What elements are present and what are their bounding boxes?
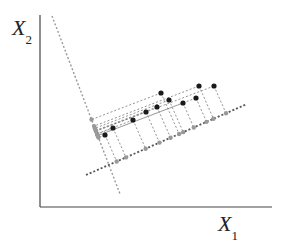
data-point <box>130 117 135 122</box>
projected-point-principal <box>204 120 208 124</box>
projected-point-principal <box>157 140 161 144</box>
projection-guide-secondary <box>98 103 183 136</box>
data-point <box>102 132 107 137</box>
projected-point-principal <box>124 155 128 159</box>
projected-point-principal <box>143 146 147 150</box>
data-point <box>180 100 185 105</box>
projected-point-principal <box>177 132 181 136</box>
projected-point-principal <box>168 136 172 140</box>
principal-component-line <box>86 104 247 175</box>
data-point <box>211 83 216 88</box>
y-axis-subscript: 2 <box>25 32 32 47</box>
projected-point-secondary <box>92 124 96 128</box>
projected-point-principal <box>114 159 118 163</box>
y-axis-label: X2 <box>12 17 32 42</box>
data-point <box>110 125 115 130</box>
projected-point-principal <box>211 117 215 121</box>
data-point <box>154 104 159 109</box>
projection-guide-principal <box>214 86 226 113</box>
projection-guide-secondary <box>94 86 199 126</box>
data-point <box>193 95 198 100</box>
y-axis-symbol: X <box>12 15 25 40</box>
projection-guide-principal <box>113 128 126 157</box>
projection-guide-principal <box>157 107 171 138</box>
projection-guide-principal <box>183 103 194 127</box>
x-axis-subscript: 1 <box>231 228 238 243</box>
x-axis-label: X1 <box>218 213 238 238</box>
projection-guide-principal <box>196 98 207 122</box>
pca-diagram <box>0 0 282 246</box>
projection-guide-principal <box>133 120 146 149</box>
projected-point-secondary <box>89 117 93 121</box>
projection-guide-principal <box>105 135 117 161</box>
data-point <box>143 109 148 114</box>
projected-point-principal <box>224 111 228 115</box>
x-axis-symbol: X <box>218 211 231 236</box>
projected-point-principal <box>181 130 185 134</box>
secondary-component-line <box>52 16 120 194</box>
data-point <box>166 97 171 102</box>
projection-guide-secondary <box>95 100 169 128</box>
projected-point-principal <box>192 125 196 129</box>
data-point <box>196 83 201 88</box>
projected-point-secondary <box>94 129 98 133</box>
data-point <box>158 90 163 95</box>
projected-point-secondary <box>95 133 99 137</box>
